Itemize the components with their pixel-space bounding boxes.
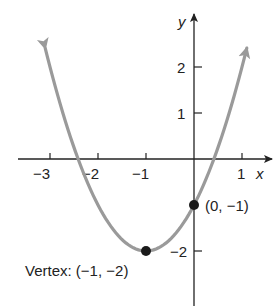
y-tick-label: 1 bbox=[177, 105, 185, 122]
vertex-label: Vertex: (−1, −2) bbox=[25, 262, 128, 279]
y-tick-label: −2 bbox=[170, 243, 187, 260]
y-intercept-point bbox=[189, 200, 199, 210]
parabola-curve bbox=[45, 48, 247, 251]
x-tick-label: −3 bbox=[33, 165, 50, 182]
vertex-point bbox=[141, 246, 151, 256]
parabola-graph: −3 −2 −1 1 x 2 1 −2 y (0, −1) Vertex: (−… bbox=[0, 0, 279, 306]
y-axis-label: y bbox=[177, 13, 187, 30]
x-axis-label: x bbox=[255, 165, 264, 182]
x-tick-label: −1 bbox=[132, 165, 149, 182]
y-tick-label: 2 bbox=[177, 59, 185, 76]
intercept-label: (0, −1) bbox=[205, 197, 249, 214]
x-tick-label: 1 bbox=[237, 165, 245, 182]
